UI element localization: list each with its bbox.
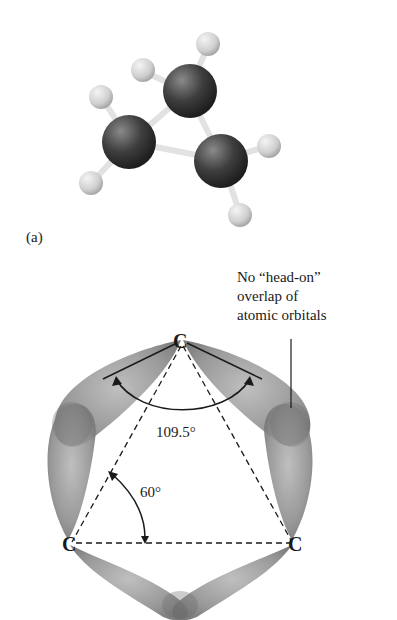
hydrogen-atom <box>196 32 220 56</box>
hydrogen-atom <box>228 203 252 227</box>
callout-text: No “head-on” overlap of atomic orbitals <box>237 268 327 325</box>
figure-canvas <box>0 0 397 620</box>
angle-label-109-5: 109.5° <box>156 424 196 441</box>
panel-label-a: (a) <box>26 229 43 246</box>
carbon-label-left: C <box>62 534 76 554</box>
hydrogen-atom <box>257 134 281 158</box>
callout-line: atomic orbitals <box>237 306 327 325</box>
angle-label-60: 60° <box>140 484 161 501</box>
cyclopropane-model <box>79 32 281 227</box>
carbon-atom <box>163 64 217 118</box>
callout-line: overlap of <box>237 287 327 306</box>
hydrogen-atom <box>131 58 155 82</box>
hydrogen-atom <box>79 171 103 195</box>
callout-line: No “head-on” <box>237 268 327 287</box>
carbon-atom <box>194 134 248 188</box>
carbon-atom <box>102 115 156 169</box>
orbital-diagram <box>48 339 313 620</box>
carbon-label-right: C <box>288 534 302 554</box>
hydrogen-atom <box>89 85 113 109</box>
carbon-label-top: C <box>173 331 187 351</box>
